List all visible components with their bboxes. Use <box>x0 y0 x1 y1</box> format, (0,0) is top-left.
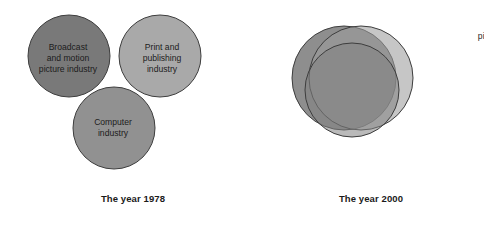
caption-1978: The year 1978 <box>58 193 208 204</box>
label-broadcast-2000: Broadcast and motion picture industry <box>464 9 484 43</box>
venn-figure: Broadcast and motion picture industry Pr… <box>0 0 484 226</box>
label-computer-1978: Computer industry <box>70 117 156 139</box>
venn-circles-2000 <box>292 26 413 137</box>
venn-diagram-1978 <box>0 0 242 185</box>
venn-diagram-2000 <box>242 0 484 185</box>
label-print-1978: Print and publishing industry <box>124 42 200 76</box>
circle-computer-2000 <box>305 43 399 137</box>
label-broadcast-1978: Broadcast and motion picture industry <box>18 42 118 76</box>
caption-2000: The year 2000 <box>296 193 446 204</box>
venn-circles-1978 <box>28 15 201 169</box>
